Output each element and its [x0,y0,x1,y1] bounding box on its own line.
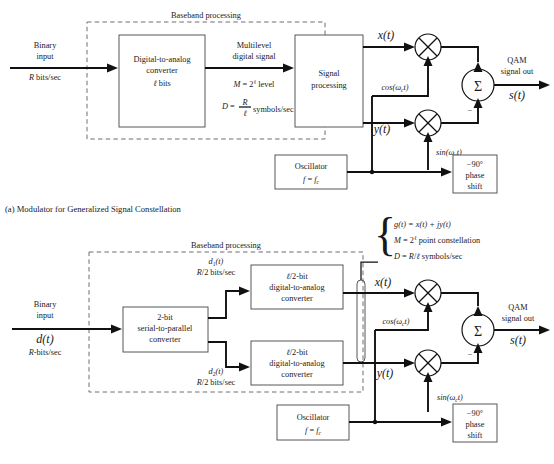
annotation-brace-b: { [374,209,396,260]
figure-root: Baseband processing Binary input R bits/… [0,0,554,464]
sin-tail-b: t) [458,393,463,402]
d-numerator-a: R [241,98,247,107]
phase-line3-b: shift [468,431,483,440]
binary-input-rate-rest-b: -bits/sec [34,348,62,357]
cos-label-a: cos(ωct) [381,83,408,93]
baseband-processing-label-a: Baseband processing [171,11,241,20]
cos-tail-b: t) [405,317,410,326]
branch-bottom-wire-b [208,342,239,367]
sp-line1-a: Signal [318,69,340,78]
i-to-summer-arrowhead-b [474,306,483,316]
x-signal-label-a: x(t) [377,28,395,42]
binary-input-rate-a: R bits/sec [28,73,61,82]
input-arrowhead-b [111,325,122,334]
dac-bottom-line3-b: converter [281,370,313,379]
phase-line1-a: −90° [467,160,483,169]
phase-line3-a: shift [468,182,483,191]
stp-line1-b: 2-bit [157,313,173,322]
binary-input-rate-b: R-bits/sec [28,348,62,357]
annotation-m-tail-b: point constellation [417,236,481,245]
stp-line3-b: converter [149,335,181,344]
dac-bottom-bit-b: /2-bit [290,348,309,357]
annotation-line2-b: M = 2ℓ point constellation [393,235,481,245]
i-to-summer-wire-b [441,293,478,306]
d1-tail-b: (t) [216,257,224,266]
i-to-summer-wire-a [441,47,478,62]
x-branch-arrowhead-b [404,289,415,298]
output-arrowhead-a [539,81,550,90]
cos-text-a: cos(ω [381,83,401,92]
d-tail-a: symbols/sec [253,105,294,114]
d2-tail-b: (t) [216,367,224,376]
binary-input-line1-a: Binary [34,41,57,50]
branch-bottom-arrowhead-b [239,363,250,372]
stp-line2-b: serial-to-parallel [138,324,194,333]
m-eq-a: = 2 [241,80,254,89]
binary-input-line2-b: input [36,311,54,320]
dac-bottom-line1-b: ℓ/2-bit [286,348,308,357]
dac-top-bit-b: /2-bit [290,272,309,281]
input-arrowhead-a [107,64,118,73]
annotation-d-tail-b: symbols/sec [420,252,463,261]
d2-rate-b: R/2 bits/sec [196,378,236,387]
phase-line2-a: phase [466,171,485,180]
d2-signal-b: d2(t) [209,367,224,377]
oscillator-line1-a: Oscillator [295,162,328,171]
d1-rate-rest-b: /2 bits/sec [202,268,236,277]
y-branch-arrowhead-b [404,359,415,368]
oscillator-arrowhead-a [441,168,452,177]
annotation-line1-b: g(t) = x(t) + jy(t) [394,220,451,229]
phase-line1-b: −90° [467,409,483,418]
multilevel-line2-a: digital signal [232,52,276,61]
dac-top-line3-b: converter [281,294,313,303]
qam-out-signal-b: s(t) [510,333,526,347]
m-equation-a: M = 2ℓ level [233,79,275,89]
x-branch-arrowhead-a [404,43,415,52]
dac-line1-a: Digital-to-analog [133,55,190,64]
caption-a: (a) Modulator for Generalized Signal Con… [5,204,182,214]
qam-out-line2-b: signal out [502,314,535,323]
annotation-m-eq-b: = 2 [401,236,414,245]
m-tail-a: level [256,80,275,89]
osc-eq-b: = [307,426,316,435]
summer-minus-sign-a: − [468,106,473,115]
d1-rate-b: R/2 bits/sec [196,268,236,277]
y-branch-arrowhead-a [404,119,415,128]
qam-out-signal-a: s(t) [509,88,525,102]
dac-top-line1-b: ℓ/2-bit [286,272,308,281]
annotation-line3-b: D = R/ℓ symbols/sec [393,252,463,261]
q-to-summer-wire-a [441,108,478,123]
cos-tail-a: t) [404,83,409,92]
qam-out-line2-a: signal out [501,67,534,76]
branch-top-arrowhead-b [239,287,250,296]
d1-signal-b: d1(t) [209,257,224,267]
baseband-processing-label-b: Baseband processing [191,241,261,250]
binary-input-signal-b: d(t) [36,332,53,346]
diagram-a: Baseband processing Binary input R bits/… [10,11,550,193]
cos-text-b: cos(ω [382,317,402,326]
oscillator-arrowhead-b [441,418,452,427]
d-num-sym-a: R [241,98,247,107]
summer-minus-sign-b: − [468,350,473,359]
sp-line2-a: processing [311,81,347,90]
oscillator-line1-b: Oscillator [297,413,330,422]
osc-eq-a: = [305,175,314,184]
sin-text-b: sin(ω [437,393,455,402]
binary-input-line2-a: input [36,52,54,61]
i-to-summer-arrowhead-a [474,62,483,72]
dac-top-line2-b: digital-to-analog [269,283,324,292]
phase-line2-b: phase [466,420,485,429]
sin-label-b: sin(ωct) [437,393,463,403]
d-denominator-a: ℓ [243,109,247,118]
qam-out-line1-a: QAM [507,56,527,65]
sin-text-a: sin(ω [436,148,454,157]
output-arrowhead-b [539,326,550,335]
q-to-summer-wire-b [441,353,478,363]
qam-out-line1-b: QAM [508,303,528,312]
cos-label-b: cos(ωct) [382,317,409,327]
dac-line3-a: ℓ bits [153,79,171,88]
dac-line2-a: converter [146,66,178,75]
dac-to-sp-arrowhead-a [283,64,294,73]
d-symbol-a: D [221,102,228,111]
y-signal-label-a: y(t) [373,122,391,136]
